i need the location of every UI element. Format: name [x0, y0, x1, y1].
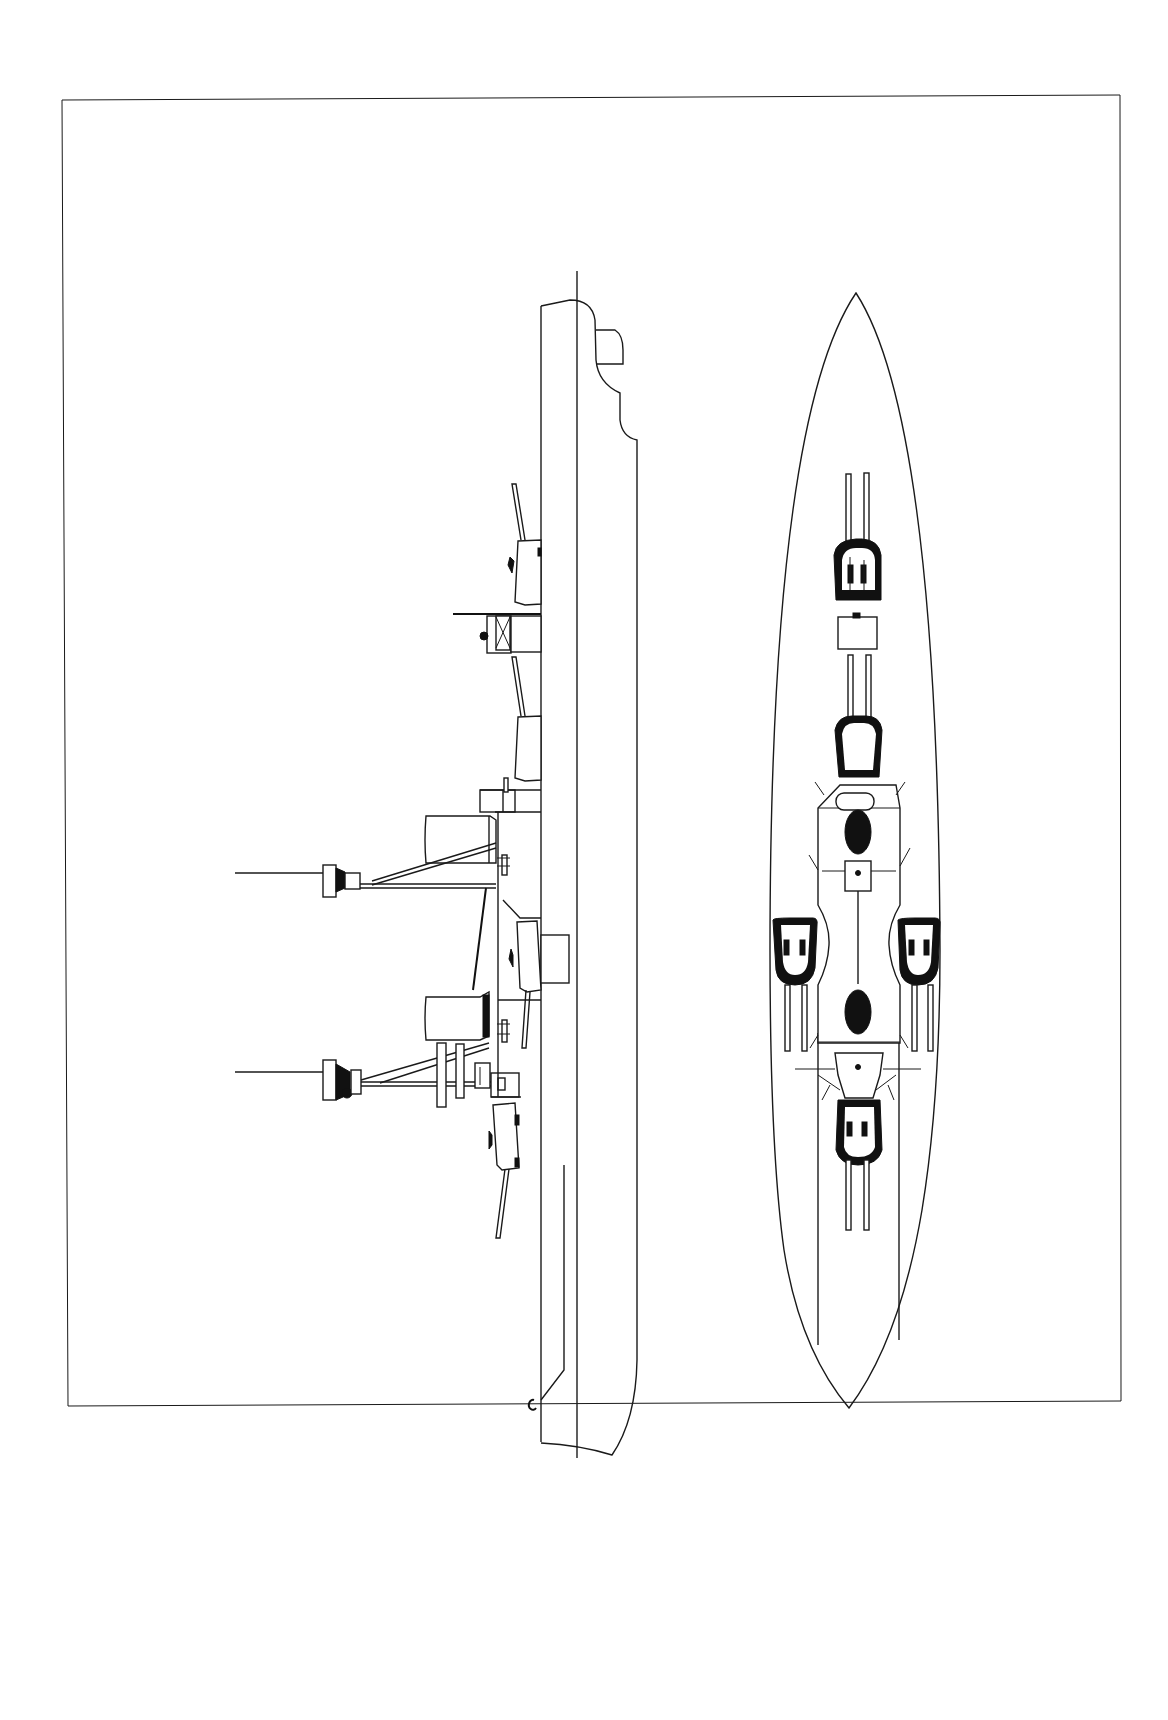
plan-turret-aft [836, 1100, 882, 1230]
plan-funnel-fore [845, 810, 871, 854]
forward-turret-a [508, 484, 541, 605]
hull-outline [541, 300, 637, 1455]
drawing-page [0, 0, 1168, 1720]
main-mast [235, 1043, 496, 1107]
stern-scuttle [529, 1400, 536, 1410]
page-border [62, 95, 1121, 1406]
plan-bridge-cap [853, 613, 860, 618]
plan-superstructure [809, 782, 910, 1048]
aft-turret [489, 1103, 519, 1238]
aft-deckhouse [491, 1000, 521, 1097]
plan-turret-port-wing [773, 918, 817, 1051]
plan-turret-starboard-wing [898, 918, 940, 1051]
profile-view [235, 271, 637, 1458]
derrick [473, 888, 486, 990]
ship-drawing [0, 0, 1168, 1720]
plan-aft-bridge [795, 1053, 921, 1100]
wing-turret [498, 900, 569, 1048]
plan-turret-2 [835, 655, 882, 777]
fore-funnel [425, 816, 496, 863]
forward-turret-b [512, 657, 541, 781]
plan-view [770, 293, 940, 1408]
aft-funnel [425, 992, 510, 1042]
plan-funnel-aft [845, 990, 871, 1034]
bow-fitting [596, 330, 623, 364]
forward-bridge [453, 614, 541, 653]
plan-turret-1 [834, 473, 881, 600]
plan-forward-bridge [838, 617, 877, 649]
stern-deck-step [541, 1165, 564, 1400]
